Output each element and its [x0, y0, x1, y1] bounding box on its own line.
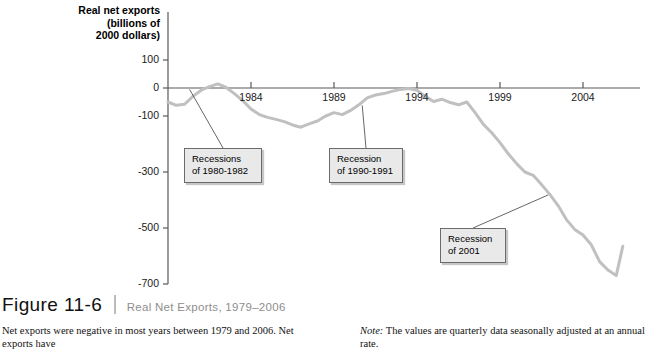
y-tick-label: 0 [101, 81, 159, 93]
note-label: Note: [360, 325, 383, 336]
note-text: The values are quarterly data seasonally… [360, 325, 645, 349]
x-tick-label: 1984 [227, 91, 275, 103]
figure-body-text: Net exports were negative in most years … [2, 324, 302, 350]
x-tick-label: 1989 [310, 91, 358, 103]
y-tick-label: -300 [101, 165, 159, 177]
chart-figure: Real net exports (billions of 2000 dolla… [0, 0, 649, 288]
y-tick-label: -500 [101, 221, 159, 233]
annotation-callout: Recession of 2001 [440, 228, 506, 263]
y-tick-label: -700 [101, 277, 159, 289]
figure-note: Note: The values are quarterly data seas… [360, 324, 648, 350]
x-tick-label: 2004 [559, 91, 607, 103]
figure-caption: Figure 11-6 Real Net Exports, 1979–2006 [2, 292, 286, 316]
figure-number: Figure 11-6 [2, 294, 102, 316]
x-tick-label: 1999 [476, 91, 524, 103]
figure-title: Real Net Exports, 1979–2006 [127, 301, 286, 313]
annotation-callout: Recessions of 1980-1982 [184, 148, 262, 183]
annotation-callout: Recession of 1990-1991 [329, 148, 403, 183]
x-tick-label: 1994 [393, 91, 441, 103]
y-tick-label: 100 [101, 53, 159, 65]
caption-divider [114, 295, 116, 314]
line-chart-plot [0, 0, 649, 288]
y-tick-label: -100 [101, 109, 159, 121]
